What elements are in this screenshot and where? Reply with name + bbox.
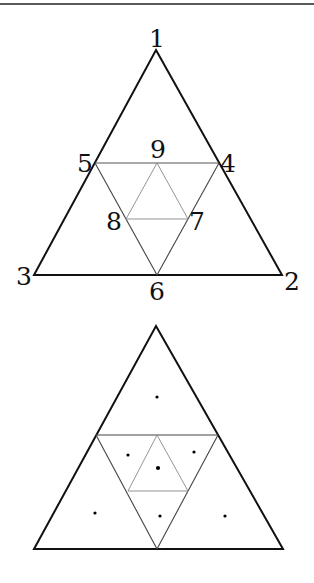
dot-bottom-left [93,511,96,514]
vertex-label-1: 1 [149,24,165,53]
vertex-label-4: 4 [220,149,236,178]
inner-triangle [126,163,188,219]
vertex-label-6: 6 [149,277,165,306]
labeled-triangle-figure: 1 2 3 4 5 6 7 8 9 [16,24,300,306]
vertex-label-2: 2 [284,267,300,296]
dot-top-region [155,395,158,398]
dot-bottom-middle [158,514,161,517]
dotted-triangle-figure [34,326,283,549]
diagram-canvas: 1 2 3 4 5 6 7 8 9 [0,0,314,583]
dot-left-medial [126,453,129,456]
vertex-label-9: 9 [150,135,166,164]
vertex-label-3: 3 [16,262,32,291]
vertex-label-7: 7 [189,207,205,236]
inner-triangle-2 [128,435,188,491]
dot-bottom-right [223,514,226,517]
dot-right-medial [192,450,195,453]
dot-inner-center [156,466,160,470]
vertex-label-8: 8 [106,207,122,236]
vertex-label-5: 5 [77,149,93,178]
